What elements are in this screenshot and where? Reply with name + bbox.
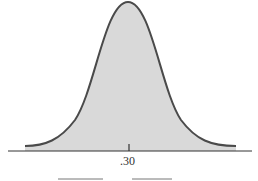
- curve-area: [25, 2, 236, 151]
- center-tick-label: .30: [120, 154, 135, 169]
